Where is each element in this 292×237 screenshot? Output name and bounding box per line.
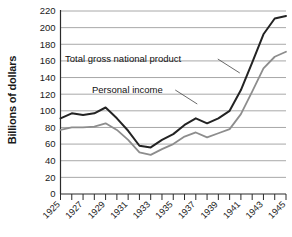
x-tick-labels-group: 1925192719291931193319351937193919411943…	[41, 199, 288, 220]
y-tick-label: 20	[45, 172, 56, 183]
series-line	[61, 52, 287, 155]
annotation-leader-line	[175, 90, 197, 104]
y-axis-title: Billions of dollars	[6, 56, 18, 145]
chart-figure: Billions of dollars 02040608010012014016…	[0, 0, 292, 237]
y-tick-label: 180	[40, 39, 56, 50]
y-tick-label: 140	[40, 72, 56, 83]
y-tick-label: 80	[45, 122, 56, 133]
series-annotation-label: Personal income	[92, 84, 163, 95]
x-tick-label: 1933	[131, 199, 152, 220]
y-tick-label: 100	[40, 105, 56, 116]
y-tick-label: 60	[45, 138, 56, 149]
x-axis-group	[61, 10, 287, 200]
x-tick-label: 1937	[176, 199, 197, 220]
y-axis-title-wrap: Billions of dollars	[2, 0, 22, 200]
x-tick-label: 1935	[153, 199, 174, 220]
series-annotation-label: Total gross national product	[65, 53, 182, 64]
y-tick-label: 220	[40, 5, 56, 16]
x-tick-label: 1945	[266, 199, 287, 220]
y-tick-label: 160	[40, 55, 56, 66]
chart-svg: 020406080100120140160180200220 192519271…	[0, 0, 292, 237]
x-tick-label: 1943	[244, 199, 265, 220]
x-tick-label: 1931	[108, 199, 129, 220]
x-tick-label: 1929	[86, 199, 107, 220]
y-tick-label: 0	[50, 188, 55, 199]
x-tick-label: 1939	[199, 199, 220, 220]
y-tick-label: 40	[45, 155, 56, 166]
y-tick-label: 120	[40, 89, 56, 100]
x-tick-label: 1941	[221, 199, 242, 220]
x-tick-label: 1927	[63, 199, 84, 220]
x-tick-label: 1925	[41, 199, 62, 220]
y-tick-label: 200	[40, 22, 56, 33]
y-tick-labels-group: 020406080100120140160180200220	[40, 5, 56, 199]
